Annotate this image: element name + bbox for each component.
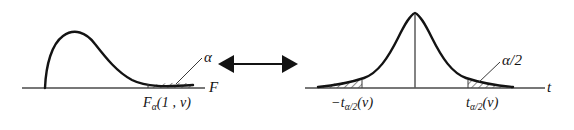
- f-tail-area-label: α: [204, 50, 212, 65]
- t-alpha-leader-line: [478, 62, 500, 83]
- t-axis-label: t: [547, 80, 551, 95]
- t-positive-argument: (v): [483, 95, 499, 110]
- f-axis-label: F: [209, 80, 218, 95]
- t-tail-area-label: α/2: [502, 53, 522, 68]
- t-distribution-panel: [305, 13, 545, 88]
- t-negative-subscript: α/2: [345, 102, 357, 112]
- f-critical-argument: (1 , v): [157, 95, 191, 110]
- statistical-distribution-figure: F Fα(1 , v) α t −tα/2(v) tα/2(v) α/2: [0, 0, 574, 130]
- f-alpha-leader-line: [176, 58, 202, 84]
- t-positive-critical-value-label: tα/2(v): [466, 96, 499, 113]
- t-positive-subscript: α/2: [470, 102, 482, 112]
- f-critical-value-label: Fα(1 , v): [143, 96, 191, 113]
- f-density-curve: [45, 32, 193, 88]
- f-distribution-panel: [22, 32, 205, 88]
- f-critical-base: F: [143, 95, 152, 110]
- t-negative-argument: (v): [357, 95, 373, 110]
- t-negative-sign: −: [331, 95, 341, 110]
- t-negative-critical-value-label: −tα/2(v): [331, 96, 373, 113]
